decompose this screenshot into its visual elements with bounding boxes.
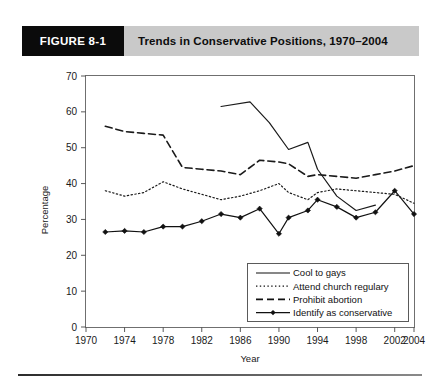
chart-legend[interactable]: Cool to gaysAttend church regularyProhib… xyxy=(248,264,409,322)
x-tick-label: 1986 xyxy=(229,335,252,346)
y-tick-label: 0 xyxy=(71,322,77,333)
y-tick-label: 10 xyxy=(66,286,78,297)
footer-divider xyxy=(18,374,422,376)
x-tick-label: 1970 xyxy=(75,335,98,346)
x-tick-label: 1990 xyxy=(268,335,291,346)
legend-item-label[interactable]: Prohibit abortion xyxy=(293,294,362,305)
x-tick-label: 1998 xyxy=(345,335,368,346)
x-tick-label: 2004 xyxy=(403,335,426,346)
legend-item-label[interactable]: Cool to gays xyxy=(293,267,346,278)
chart-container: 010203040506070 197019741978198219861990… xyxy=(0,0,441,390)
x-tick-label: 1978 xyxy=(152,335,175,346)
y-tick-label: 40 xyxy=(66,178,78,189)
legend-item-label[interactable]: Attend church regulary xyxy=(293,281,389,292)
x-axis-ticks: 1970197419781982198619901994199820022004 xyxy=(75,327,426,346)
x-tick-label: 1974 xyxy=(113,335,136,346)
y-axis-title: Percentage xyxy=(39,186,50,235)
x-tick-label: 1994 xyxy=(306,335,329,346)
y-tick-label: 50 xyxy=(66,142,78,153)
legend-item-label[interactable]: Identify as conservative xyxy=(293,307,392,318)
trends-line-chart: 010203040506070 197019741978198219861990… xyxy=(0,0,441,390)
x-tick-label: 1982 xyxy=(191,335,214,346)
y-tick-label: 20 xyxy=(66,250,78,261)
x-axis-title: Year xyxy=(240,353,259,364)
y-tick-label: 60 xyxy=(66,106,78,117)
y-tick-label: 30 xyxy=(66,214,78,225)
y-tick-label: 70 xyxy=(66,71,78,82)
y-axis-ticks: 010203040506070 xyxy=(66,71,86,333)
